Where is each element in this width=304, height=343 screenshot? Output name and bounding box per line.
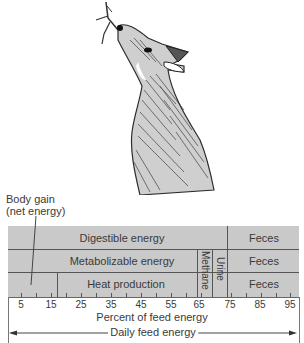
urine-label: Urine	[215, 257, 226, 281]
feces-label-3: Feces	[249, 278, 279, 290]
tick-30	[96, 293, 97, 297]
tick-40	[126, 293, 127, 297]
tick-5	[21, 293, 22, 297]
tick-label-95: 95	[284, 299, 295, 310]
tick-60	[186, 293, 187, 297]
tick-label-75: 75	[224, 299, 235, 310]
tick-85	[261, 293, 262, 297]
tick-label-25: 25	[75, 299, 86, 310]
feces-label-1: Feces	[249, 232, 279, 244]
metabolizable-energy-label: Metabolizable energy	[70, 255, 175, 267]
tick-50	[156, 293, 157, 297]
daily-feed-energy-label: Daily feed energy	[108, 326, 198, 338]
tick-25	[81, 293, 82, 297]
tick-10	[36, 293, 37, 297]
tick-label-65: 65	[193, 299, 204, 310]
body-gain-pointer-line	[0, 0, 304, 343]
tick-55	[171, 293, 172, 297]
heat-production-label: Heat production	[87, 278, 165, 290]
tick-label-55: 55	[165, 299, 176, 310]
tick-15	[51, 293, 52, 297]
digestible-energy-label: Digestible energy	[80, 232, 165, 244]
tick-20	[66, 293, 67, 297]
tick-label-45: 45	[135, 299, 146, 310]
feces-label-2: Feces	[249, 255, 279, 267]
tick-label-5: 5	[18, 299, 24, 310]
axis-baseline	[8, 297, 299, 298]
tick-label-35: 35	[105, 299, 116, 310]
tick-45	[141, 293, 142, 297]
tick-95	[290, 293, 291, 297]
tick-label-15: 15	[45, 299, 56, 310]
tick-90	[276, 293, 277, 297]
tick-75	[231, 293, 232, 297]
energy-partition-diagram: Body gain (net energy) Digestible energy…	[0, 0, 304, 343]
tick-label-85: 85	[254, 299, 265, 310]
methane-label: Methane	[200, 251, 211, 290]
tick-65	[201, 293, 202, 297]
tick-35	[111, 293, 112, 297]
tick-80	[246, 293, 247, 297]
x-axis-label: Percent of feed energy	[96, 311, 207, 323]
